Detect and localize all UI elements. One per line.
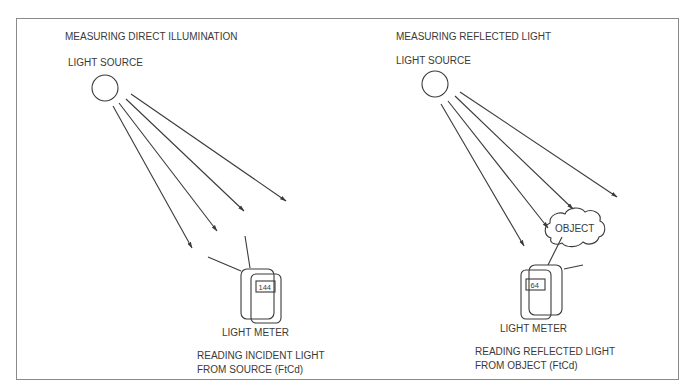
ray-arrow-icon <box>126 99 244 211</box>
meter-reading: 64 <box>531 281 539 290</box>
light-rays <box>113 94 286 248</box>
meter-reading: 144 <box>259 283 272 292</box>
diagram-frame <box>17 19 679 380</box>
ray-arrow-icon <box>460 92 617 197</box>
light-meter-icon: 64 <box>521 265 562 319</box>
ray-arrow-icon <box>119 103 217 231</box>
light-source-icon <box>422 71 448 97</box>
ray-arrow-icon <box>131 94 286 201</box>
light-meter-label: LIGHT METER <box>500 323 567 334</box>
panel-reflected-light: MEASURING REFLECTED LIGHT LIGHT SOURCE O… <box>396 31 617 371</box>
meter-field-line <box>208 257 241 271</box>
panel-direct-illumination: MEASURING DIRECT ILLUMINATION LIGHT SOUR… <box>65 31 325 375</box>
light-source-icon <box>92 75 118 101</box>
ray-arrow-icon <box>448 101 548 228</box>
ray-arrow-icon <box>441 104 524 246</box>
object-cloud-icon: OBJECT <box>545 208 605 247</box>
meter-field-line <box>548 237 562 265</box>
light-meter-label: LIGHT METER <box>222 327 289 338</box>
object-label: OBJECT <box>555 223 594 234</box>
meter-field-line <box>245 236 250 268</box>
panel-title: MEASURING DIRECT ILLUMINATION <box>65 31 237 42</box>
caption-line-2: FROM OBJECT (FtCd) <box>475 360 578 371</box>
caption-line-2: FROM SOURCE (FtCd) <box>197 364 303 375</box>
caption-line-1: READING REFLECTED LIGHT <box>475 346 615 357</box>
meter-field-line <box>564 265 583 269</box>
light-meter-icon: 144 <box>241 269 281 323</box>
panel-title: MEASURING REFLECTED LIGHT <box>396 31 551 42</box>
light-source-label: LIGHT SOURCE <box>396 55 471 66</box>
ray-arrow-icon <box>455 96 573 209</box>
light-measurement-diagram: MEASURING DIRECT ILLUMINATION LIGHT SOUR… <box>0 0 693 392</box>
light-source-label: LIGHT SOURCE <box>68 57 143 68</box>
caption-line-1: READING INCIDENT LIGHT <box>197 350 325 361</box>
